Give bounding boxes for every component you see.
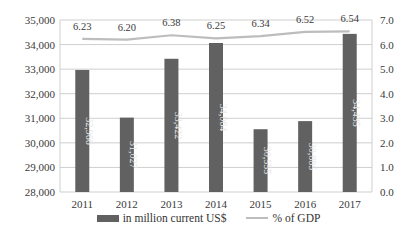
x-tick-label: 2014 — [205, 198, 228, 210]
x-axis-ticks: 2011201220132014201520162017 — [71, 198, 361, 210]
left-tick-label: 32,000 — [25, 88, 56, 100]
combo-chart: 28,00029,00030,00031,00032,00033,00034,0… — [0, 0, 417, 242]
x-tick-label: 2012 — [116, 198, 138, 210]
right-tick-label: 1.0 — [380, 161, 394, 173]
left-tick-label: 34,000 — [25, 39, 56, 51]
right-tick-label: 4.0 — [380, 88, 394, 100]
line-value-label: 6.20 — [118, 22, 136, 33]
x-tick-label: 2011 — [71, 198, 93, 210]
line-value-label: 6.23 — [73, 21, 91, 32]
right-tick-label: 3.0 — [380, 112, 394, 124]
x-tick-label: 2013 — [160, 198, 183, 210]
x-tick-label: 2016 — [294, 198, 317, 210]
bar-value-label: 30,555 — [262, 147, 273, 175]
right-tick-label: 6.0 — [380, 39, 394, 51]
bar-swatch-icon — [97, 215, 119, 222]
right-tick-label: 2.0 — [380, 137, 394, 149]
legend: in million current US$ % of GDP — [0, 212, 417, 224]
left-tick-label: 30,000 — [25, 137, 56, 149]
bar-value-label: 34,435 — [351, 99, 362, 127]
legend-item-line: % of GDP — [246, 212, 320, 224]
line-value-label: 6.52 — [296, 14, 314, 25]
left-tick-label: 29,000 — [25, 161, 56, 173]
line-value-label: 6.54 — [341, 13, 360, 24]
x-tick-label: 2017 — [339, 198, 362, 210]
line-series: 6.236.206.386.256.346.526.54 — [73, 13, 360, 39]
bar-value-label: 31,027 — [128, 141, 139, 169]
bar-series: 32,96631,02733,42234,06430,55530,88534,4… — [75, 34, 362, 192]
left-tick-label: 31,000 — [25, 112, 56, 124]
legend-item-bar: in million current US$ — [97, 212, 227, 224]
right-tick-label: 5.0 — [380, 63, 394, 75]
line-swatch-icon — [246, 217, 268, 219]
bar-value-label: 32,966 — [84, 117, 95, 145]
bar-value-label: 33,422 — [173, 112, 184, 140]
legend-line-label: % of GDP — [272, 212, 320, 224]
legend-bar-label: in million current US$ — [123, 212, 227, 224]
bar-value-label: 34,064 — [218, 104, 229, 131]
line-value-label: 6.34 — [251, 18, 270, 29]
x-tick-label: 2015 — [250, 198, 273, 210]
line-value-label: 6.38 — [162, 17, 180, 28]
right-tick-label: 0.0 — [380, 186, 394, 198]
left-tick-label: 33,000 — [25, 63, 56, 75]
line-value-label: 6.25 — [207, 20, 225, 31]
left-tick-label: 28,000 — [25, 186, 56, 198]
right-tick-label: 7.0 — [380, 14, 394, 26]
right-axis-ticks: 0.01.02.03.04.05.06.07.0 — [380, 14, 394, 198]
left-axis-ticks: 28,00029,00030,00031,00032,00033,00034,0… — [25, 14, 56, 198]
bar-value-label: 30,885 — [307, 143, 318, 171]
left-tick-label: 35,000 — [25, 14, 56, 26]
